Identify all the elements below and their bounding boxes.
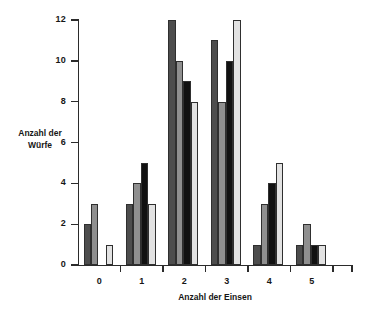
bar <box>133 183 140 265</box>
bar <box>141 163 148 265</box>
bar <box>276 163 283 265</box>
bar <box>311 245 318 265</box>
bar <box>253 245 260 265</box>
y-tick-label: 4 <box>46 177 66 187</box>
bar <box>168 20 175 265</box>
x-tick-label: 2 <box>169 276 199 286</box>
x-axis-title: Anzahl der Einsen <box>78 292 352 302</box>
bar <box>261 204 268 265</box>
bar <box>191 102 198 265</box>
bar <box>211 40 218 265</box>
bar-chart: 024681012 012345 Anzahl der Würfe Anzahl… <box>0 0 369 313</box>
x-tick-mark <box>247 265 248 272</box>
x-tick-mark <box>205 265 206 272</box>
bar <box>148 204 155 265</box>
bar <box>226 61 233 265</box>
x-tick-label: 5 <box>297 276 327 286</box>
x-tick-mark-end <box>351 265 352 272</box>
bar <box>318 245 325 265</box>
bar <box>126 204 133 265</box>
y-tick-label: 0 <box>46 259 66 269</box>
x-tick-mark <box>162 265 163 272</box>
x-tick-label: 1 <box>127 276 157 286</box>
x-tick-label: 0 <box>84 276 114 286</box>
bar <box>91 204 98 265</box>
bar <box>106 245 113 265</box>
bar <box>296 245 303 265</box>
x-tick-mark <box>120 265 121 272</box>
bar <box>303 224 310 265</box>
bar <box>218 102 225 265</box>
x-tick-mark <box>332 265 333 272</box>
y-tick-label: 8 <box>46 96 66 106</box>
plot-area <box>78 20 352 265</box>
bar <box>176 61 183 265</box>
y-axis-title-line-1: Anzahl der <box>8 127 72 139</box>
bar <box>233 20 240 265</box>
x-tick-label: 4 <box>254 276 284 286</box>
bar <box>84 224 91 265</box>
x-tick-label: 3 <box>212 276 242 286</box>
y-tick-label: 10 <box>46 55 66 65</box>
bar <box>268 183 275 265</box>
y-tick-label: 2 <box>46 218 66 228</box>
y-axis-title-line-2: Würfe <box>8 139 72 151</box>
y-axis-title: Anzahl der Würfe <box>8 127 72 151</box>
x-tick-mark <box>290 265 291 272</box>
y-tick-label: 12 <box>46 14 66 24</box>
bar <box>183 81 190 265</box>
